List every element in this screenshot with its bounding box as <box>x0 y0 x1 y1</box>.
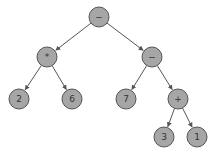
tree-edge <box>132 66 147 90</box>
edges-group <box>25 23 192 127</box>
node-label: 7 <box>123 94 129 104</box>
tree-edge <box>157 66 172 90</box>
tree-node-root: − <box>89 7 109 27</box>
node-label: − <box>95 12 103 22</box>
tree-edge <box>25 65 41 90</box>
tree-node-leaf-7: 7 <box>116 89 136 109</box>
tree-edge <box>168 108 175 126</box>
tree-edge <box>52 66 66 90</box>
node-label: 2 <box>16 94 22 104</box>
tree-node-subtract: − <box>142 47 162 67</box>
node-label: 1 <box>194 132 200 142</box>
tree-node-leaf-2: 2 <box>9 89 29 109</box>
tree-node-leaf-3: 3 <box>154 127 174 147</box>
node-label: 6 <box>69 94 75 104</box>
node-label: 3 <box>161 132 167 142</box>
tree-node-leaf-6: 6 <box>62 89 82 109</box>
nodes-group: − * − 2 6 7 + 3 1 <box>9 7 207 147</box>
tree-node-multiply: * <box>37 47 57 67</box>
tree-node-add: + <box>168 89 188 109</box>
node-label: − <box>148 52 156 62</box>
node-label: + <box>174 94 182 104</box>
node-label: * <box>45 52 50 62</box>
tree-edge <box>56 23 91 50</box>
tree-edge <box>182 108 192 127</box>
tree-edge <box>107 23 143 50</box>
tree-node-leaf-1: 1 <box>187 127 207 147</box>
expression-tree-diagram: − * − 2 6 7 + 3 1 <box>0 0 220 157</box>
